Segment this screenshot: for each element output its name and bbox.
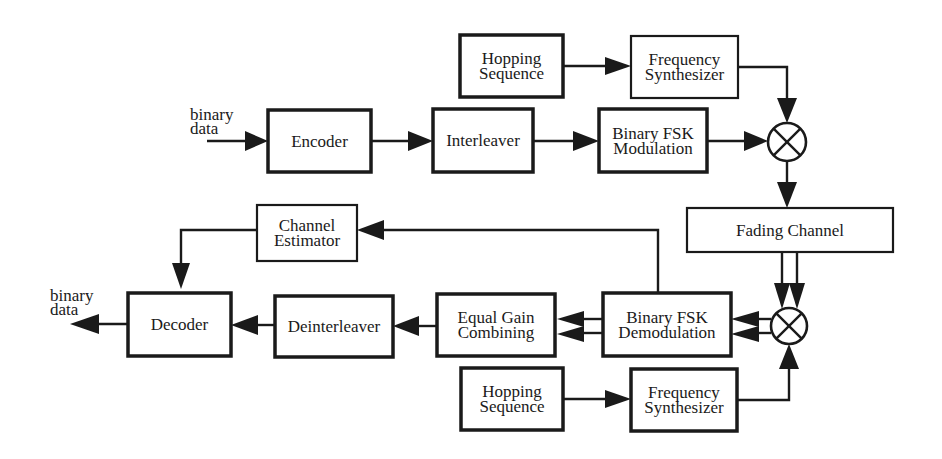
arrowhead-down-icon xyxy=(777,182,797,208)
arrowhead-down-icon xyxy=(172,263,190,289)
arrowhead-right-icon xyxy=(605,390,631,408)
decoder-label: Decoder xyxy=(128,293,231,356)
equal-gain-combining-label: Equal Gain Combining xyxy=(437,294,555,356)
input-label: binary data xyxy=(190,108,233,136)
arrowhead-right-icon xyxy=(245,131,268,151)
interleaver-label: Interleaver xyxy=(433,109,533,172)
output-label: binary data xyxy=(50,289,93,317)
arrowhead-left-icon xyxy=(357,220,384,240)
arrowhead-right-icon xyxy=(744,131,768,151)
arrowhead-up-icon xyxy=(779,344,799,369)
frequency-synthesizer-top-label: Frequency Synthesizer xyxy=(631,36,738,98)
mixer-top-icon xyxy=(768,123,806,161)
fsk-demodulation-label: Binary FSK Demodulation xyxy=(603,293,731,356)
arrowhead-left-icon xyxy=(393,316,419,336)
arrowhead-down-icon xyxy=(774,283,790,309)
wire-estimator-to-decoder xyxy=(181,230,257,270)
frequency-synthesizer-bottom-label: Frequency Synthesizer xyxy=(631,369,737,431)
arrowhead-left-icon xyxy=(231,315,258,335)
hopping-sequence-bottom-label: Hopping Sequence xyxy=(461,368,563,430)
arrowhead-left-icon xyxy=(557,326,584,342)
arrowhead-left-icon xyxy=(731,311,759,327)
arrowhead-down-icon xyxy=(777,98,797,123)
fading-channel-label: Fading Channel xyxy=(687,208,893,252)
fsk-modulation-label: Binary FSK Modulation xyxy=(599,109,707,172)
wire-demod-to-estimator xyxy=(380,230,658,293)
arrowhead-right-icon xyxy=(408,131,433,151)
arrowhead-right-icon xyxy=(573,131,599,151)
hopping-sequence-top-label: Hopping Sequence xyxy=(460,35,563,97)
arrowhead-right-icon xyxy=(605,57,631,75)
deinterleaver-label: Deinterleaver xyxy=(275,296,393,357)
encoder-label: Encoder xyxy=(268,110,371,172)
arrowhead-down-icon xyxy=(789,283,805,309)
arrowhead-left-icon xyxy=(731,326,759,342)
arrowhead-left-icon xyxy=(557,311,584,327)
channel-estimator-label: Channel Estimator xyxy=(257,205,357,261)
mixer-bottom-icon xyxy=(771,308,807,344)
